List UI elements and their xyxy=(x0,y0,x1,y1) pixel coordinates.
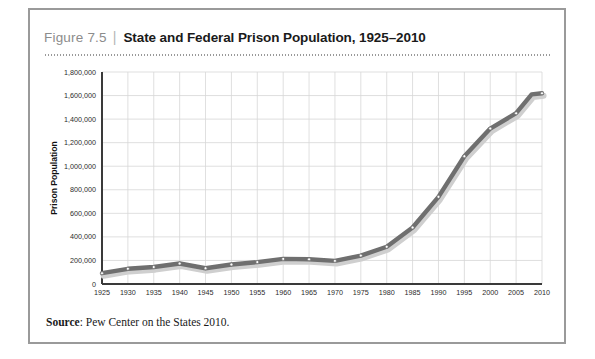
svg-text:1960: 1960 xyxy=(275,288,291,297)
svg-text:1965: 1965 xyxy=(301,288,317,297)
svg-text:1980: 1980 xyxy=(379,288,395,297)
x-axis-tick-labels: 1925193019351940194519501955196019651970… xyxy=(94,288,550,297)
prison-population-line-chart: 0200,000400,000600,000800,0001,000,0001,… xyxy=(44,62,552,312)
svg-text:1940: 1940 xyxy=(172,288,188,297)
svg-text:1935: 1935 xyxy=(146,288,162,297)
svg-text:200,000: 200,000 xyxy=(70,256,96,265)
svg-text:1925: 1925 xyxy=(94,288,110,297)
svg-text:1975: 1975 xyxy=(353,288,369,297)
source-label: Source xyxy=(46,316,80,328)
chart-plot-area: 0200,000400,000600,000800,0001,000,0001,… xyxy=(44,62,552,312)
svg-text:2000: 2000 xyxy=(482,288,498,297)
source-note: Source: Pew Center on the States 2010. xyxy=(46,316,229,328)
svg-text:1930: 1930 xyxy=(120,288,136,297)
data-series-line xyxy=(102,93,544,276)
svg-text:1,000,000: 1,000,000 xyxy=(64,162,96,171)
source-separator: : xyxy=(80,316,83,328)
svg-text:400,000: 400,000 xyxy=(70,232,96,241)
svg-text:1945: 1945 xyxy=(198,288,214,297)
svg-text:1995: 1995 xyxy=(456,288,472,297)
axis-lines xyxy=(102,72,542,284)
grid-lines xyxy=(102,72,542,284)
svg-text:2005: 2005 xyxy=(508,288,524,297)
figure-title-separator: | xyxy=(113,29,117,45)
svg-text:1,800,000: 1,800,000 xyxy=(64,68,96,77)
svg-text:1970: 1970 xyxy=(327,288,343,297)
svg-text:1955: 1955 xyxy=(249,288,265,297)
svg-text:1,200,000: 1,200,000 xyxy=(64,138,96,147)
header-divider xyxy=(44,54,550,56)
figure-number: Figure 7.5 xyxy=(44,30,107,45)
y-axis-tick-labels: 0200,000400,000600,000800,0001,000,0001,… xyxy=(64,68,96,289)
figure-title: State and Federal Prison Population, 192… xyxy=(123,30,425,45)
svg-text:1,400,000: 1,400,000 xyxy=(64,115,96,124)
y-axis-title: Prison Population xyxy=(49,141,59,215)
svg-text:1985: 1985 xyxy=(405,288,421,297)
source-text: Pew Center on the States 2010. xyxy=(86,316,230,328)
svg-text:1950: 1950 xyxy=(223,288,239,297)
svg-text:800,000: 800,000 xyxy=(70,185,96,194)
figure-header: Figure 7.5 | State and Federal Prison Po… xyxy=(44,24,550,50)
figure-box: Figure 7.5 | State and Federal Prison Po… xyxy=(28,8,566,344)
svg-text:600,000: 600,000 xyxy=(70,209,96,218)
svg-text:1,600,000: 1,600,000 xyxy=(64,91,96,100)
svg-text:1990: 1990 xyxy=(430,288,446,297)
svg-text:2010: 2010 xyxy=(534,288,550,297)
